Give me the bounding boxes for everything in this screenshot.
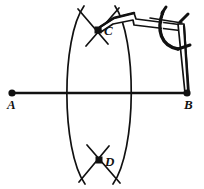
point-marker-B (183, 89, 190, 96)
point-label-B: B (184, 98, 193, 111)
point-label-A: A (7, 98, 16, 111)
compass-knob-post (162, 7, 166, 13)
geometry-figure: A B C D (0, 0, 204, 189)
point-marker-A (8, 89, 15, 96)
point-label-C: C (104, 24, 113, 37)
point-marker-D (96, 157, 103, 164)
geometry-canvas (0, 0, 204, 189)
drafting-compass (100, 7, 190, 93)
cross-tick-lower-right (87, 145, 120, 183)
arc-centered-at-B (113, 6, 131, 184)
compass-hinge-pin (180, 14, 188, 22)
point-label-D: D (105, 155, 114, 168)
arc-centered-at-A (67, 6, 85, 184)
point-marker-C (95, 27, 102, 34)
